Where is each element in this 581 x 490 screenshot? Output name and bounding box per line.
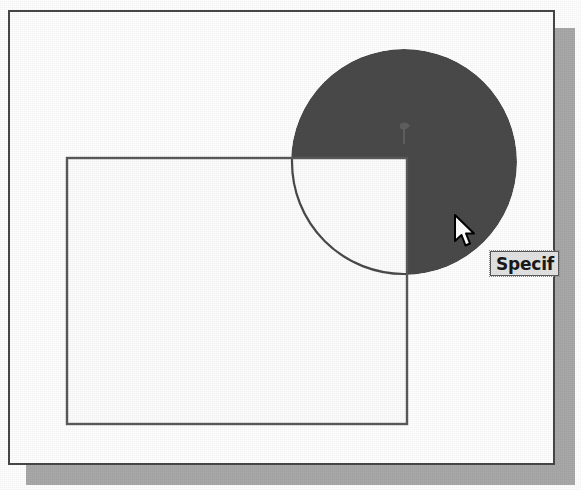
mouse-cursor-icon: [452, 213, 478, 251]
screenshot-root: Specif: [0, 0, 581, 490]
command-prompt-tooltip[interactable]: Specif: [490, 251, 559, 276]
command-prompt-text: Specif: [496, 254, 554, 274]
